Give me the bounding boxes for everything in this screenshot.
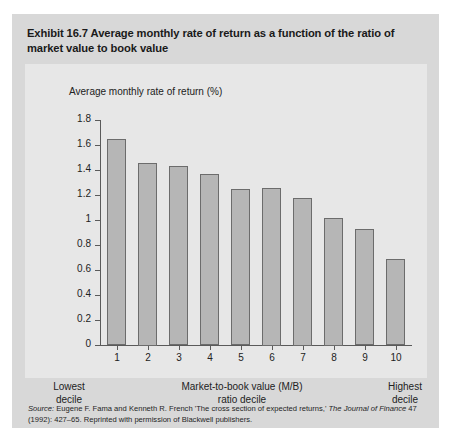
bar: [355, 229, 374, 345]
y-axis-tick-label: 1.8: [55, 113, 91, 124]
y-axis-tick-label-holder: 0.8: [49, 245, 91, 246]
y-axis-tick-label-holder: 0: [49, 345, 91, 346]
y-axis-tick: [95, 220, 101, 221]
x-axis-caption-lowest: Lowest decile: [34, 380, 104, 406]
x-axis-tick-label: 3: [167, 352, 191, 363]
y-axis-tick: [95, 195, 101, 196]
x-axis-tick: [396, 345, 397, 350]
y-axis-tick: [95, 245, 101, 246]
y-axis-tick: [95, 320, 101, 321]
x-axis-tick: [179, 345, 180, 350]
y-axis-tick-label: 0.6: [55, 263, 91, 274]
chart-panel: Average monthly rate of return (%) 00.20…: [25, 64, 427, 378]
y-axis-tick-label: 1: [55, 213, 91, 224]
y-axis-tick-label-holder: 0.6: [49, 270, 91, 271]
y-axis-tick-label-holder: 1.2: [49, 195, 91, 196]
bar: [293, 198, 312, 346]
y-axis-tick: [95, 345, 101, 346]
y-axis-tick-label-holder: 1.4: [49, 170, 91, 171]
y-axis-tick-label: 1.4: [55, 163, 91, 174]
x-axis-tick-label: 8: [322, 352, 346, 363]
source-journal: The Journal of Finance: [328, 404, 406, 413]
y-axis-line: [100, 120, 101, 346]
y-axis-tick: [95, 170, 101, 171]
source-text-1: Eugene F. Fama and Kenneth R. French 'Th…: [54, 404, 328, 413]
bar: [200, 174, 219, 345]
x-axis-tick-label: 10: [384, 352, 408, 363]
x-axis-tick: [241, 345, 242, 350]
y-axis-tick-label-holder: 0.4: [49, 295, 91, 296]
y-axis-tick-label: 0: [55, 338, 91, 349]
x-axis-tick-label: 2: [136, 352, 160, 363]
y-axis-tick: [95, 270, 101, 271]
bar: [138, 163, 157, 346]
caption-center-line1: Market-to-book value (M/B): [132, 380, 352, 393]
bar: [107, 139, 126, 345]
y-axis-tick-label: 1.6: [55, 138, 91, 149]
x-axis-tick-label: 5: [229, 352, 253, 363]
x-axis-tick-label: 7: [291, 352, 315, 363]
bar: [324, 218, 343, 346]
x-axis-tick-label: 1: [105, 352, 129, 363]
y-axis-tick-label: 0.2: [55, 313, 91, 324]
x-axis-tick-label: 6: [260, 352, 284, 363]
x-axis-caption-highest: Highest decile: [370, 380, 440, 406]
source-label: Source:: [28, 404, 54, 413]
exhibit-title: Exhibit 16.7 Average monthly rate of ret…: [27, 26, 427, 56]
caption-lowest-line1: Lowest: [34, 380, 104, 393]
bar: [386, 259, 405, 345]
x-axis-tick: [365, 345, 366, 350]
x-axis-caption-center: Market-to-book value (M/B) ratio decile: [132, 380, 352, 406]
bar: [231, 189, 250, 345]
source-note: Source: Eugene F. Fama and Kenneth R. Fr…: [28, 404, 426, 425]
y-axis-tick: [95, 120, 101, 121]
y-axis-tick: [95, 295, 101, 296]
y-axis-tick-label-holder: 0.2: [49, 320, 91, 321]
y-axis-tick-label: 1.2: [55, 188, 91, 199]
y-axis-tick: [95, 145, 101, 146]
bar: [169, 166, 188, 345]
caption-highest-line1: Highest: [370, 380, 440, 393]
x-axis-tick: [210, 345, 211, 350]
bar: [262, 188, 281, 346]
y-axis-tick-label: 0.8: [55, 238, 91, 249]
y-axis-tick-label: 0.4: [55, 288, 91, 299]
y-axis-title: Average monthly rate of return (%): [69, 86, 222, 97]
y-axis-tick-label-holder: 1.6: [49, 145, 91, 146]
x-axis-tick-label: 4: [198, 352, 222, 363]
x-axis-tick: [117, 345, 118, 350]
exhibit-figure: Exhibit 16.7 Average monthly rate of ret…: [12, 14, 439, 428]
y-axis-tick-label-holder: 1: [49, 220, 91, 221]
plot-wrapper: Average monthly rate of return (%) 00.20…: [25, 64, 427, 378]
x-axis-tick-label: 9: [353, 352, 377, 363]
y-axis-tick-label-holder: 1.8: [49, 120, 91, 121]
